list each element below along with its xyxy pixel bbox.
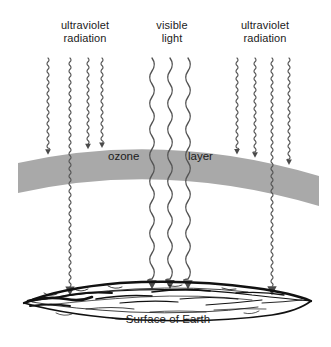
ultraviolet-right-ray [253,58,256,152]
label-ultraviolet-right-line2: radiation [215,32,315,45]
label-surface-of-earth: Surface of Earth [113,313,223,326]
ultraviolet-right-ray [236,58,239,149]
ray-arrowhead [99,143,105,149]
ray-arrowhead [252,152,258,158]
ultraviolet-left-ray [47,58,50,149]
label-ultraviolet-right: ultraviolet radiation [215,19,315,45]
label-visible-light-line1: visible [136,19,208,32]
ray-arrowhead [85,144,91,150]
label-ozone: ozone [108,150,139,162]
ray-arrowhead [286,160,292,166]
diagram-svg [0,0,331,347]
ultraviolet-left-ray [87,58,89,144]
label-ultraviolet-left-line1: ultraviolet [35,19,135,32]
ray-arrowhead [45,149,51,155]
label-ultraviolet-left: ultraviolet radiation [35,19,135,45]
ray-arrowhead [234,149,240,155]
label-layer: layer [188,150,213,162]
diagram-canvas: ultraviolet radiation visible light ultr… [0,0,331,347]
label-ultraviolet-right-line1: ultraviolet [215,19,315,32]
label-ultraviolet-left-line2: radiation [35,32,135,45]
ultraviolet-left-ray [101,58,103,143]
ultraviolet-right-ray [287,58,290,160]
label-visible-light: visible light [136,19,208,45]
label-visible-light-line2: light [136,32,208,45]
